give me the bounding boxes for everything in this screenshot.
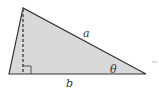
triangle-diagram: a θ b xyxy=(0,0,159,90)
triangle xyxy=(9,8,146,74)
label-b: b xyxy=(66,77,73,90)
label-theta: θ xyxy=(110,63,117,76)
label-a: a xyxy=(83,27,90,40)
